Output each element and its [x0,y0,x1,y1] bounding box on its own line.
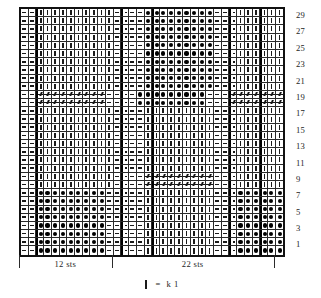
chart-cell [52,230,60,237]
chart-cell [152,214,160,221]
chart-cell [152,173,160,180]
chart-cell [137,34,145,41]
chart-cell [21,34,29,41]
chart-cell [75,124,83,131]
chart-cell [36,140,44,147]
chart-cell [106,91,114,98]
repeat-tick [274,255,275,268]
chart-cell [114,42,122,49]
chart-cell [44,99,52,106]
chart-cell [229,66,237,73]
chart-cell [36,181,44,188]
chart-cell [152,197,160,204]
chart-cell [98,83,106,90]
chart-cell [222,148,230,155]
chart-cell [214,165,222,172]
chart-cell [145,165,153,172]
chart-cell [106,246,114,254]
chart-cell [21,181,29,188]
chart-cell [222,34,230,41]
chart-cell [36,9,44,16]
chart-cell [152,42,160,49]
chart-cell [260,107,268,114]
chart-cell [36,206,44,213]
chart-cell [137,115,145,122]
chart-cell [83,140,91,147]
chart-cell [237,246,245,254]
chart-cell [75,238,83,245]
chart-cell [229,214,237,221]
chart-cell [98,156,106,163]
chart-cell [268,165,276,172]
chart-cell [145,214,153,221]
chart-cell [214,42,222,49]
chart-cell [106,148,114,155]
chart-cell [237,222,245,229]
chart-cell [168,206,176,213]
chart-cell [160,140,168,147]
chart-cell [199,107,207,114]
row-number: 21 [291,73,321,89]
chart-cell [191,83,199,90]
chart-cell [183,181,191,188]
chart-cell [160,115,168,122]
chart-cell [67,75,75,82]
chart-cell [237,25,245,32]
repeat-label: 12 sts [19,259,112,269]
chart-cell [21,42,29,49]
chart-cell [121,75,129,82]
chart-cell [260,42,268,49]
chart-cell [268,83,276,90]
chart-cell [129,115,137,122]
chart-cell [121,34,129,41]
chart-cell [29,9,37,16]
chart-cell [214,197,222,204]
chart-cell [83,230,91,237]
chart-cell [60,132,68,139]
chart-cell [21,99,29,106]
chart-cell [222,115,230,122]
chart-cell [175,173,183,180]
chart-cell [98,42,106,49]
chart-cell [152,58,160,65]
chart-cell [276,189,284,196]
chart-cell [67,165,75,172]
chart-cell [36,58,44,65]
chart-cell [276,140,284,147]
chart-cell [52,132,60,139]
chart-cell [253,107,261,114]
chart-cell [214,238,222,245]
chart-cell [52,189,60,196]
chart-cell [75,181,83,188]
chart-cell [152,165,160,172]
chart-cell [276,50,284,57]
chart-cell [245,206,253,213]
chart-cell [253,75,261,82]
chart-cell [121,197,129,204]
chart-cell [175,189,183,196]
chart-cell [60,238,68,245]
chart-cell [199,75,207,82]
chart-cell [260,189,268,196]
chart-cell [276,83,284,90]
chart-cell [160,206,168,213]
chart-cell [253,50,261,57]
chart-cell [206,75,214,82]
chart-cell [214,9,222,16]
chart-cell [44,173,52,180]
chart-cell [29,17,37,24]
row-number: 19 [291,89,321,105]
chart-cell [206,140,214,147]
chart-cell [253,181,261,188]
knit-bar-icon [142,280,149,289]
chart-cell [121,148,129,155]
chart-cell [67,9,75,16]
chart-cell [253,230,261,237]
chart-cell [160,58,168,65]
chart-cell [90,91,98,98]
chart-cell [44,189,52,196]
chart-cell [160,230,168,237]
chart-cell [229,34,237,41]
row-number: 17 [291,105,321,121]
chart-cell [168,9,176,16]
